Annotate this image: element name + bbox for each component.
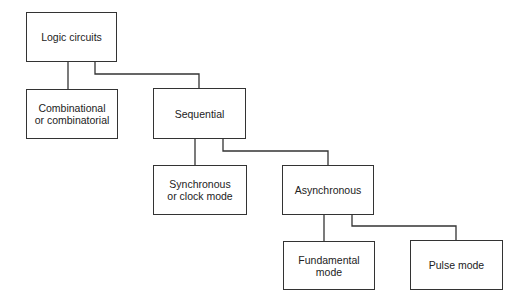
node-logic-circuits: Logic circuits [26,12,117,62]
node-sequential: Sequential [153,88,246,139]
edge-logic-seq [95,61,199,88]
node-pulse-mode: Pulse mode [410,240,503,290]
node-fundamental-mode: Fundamental mode [283,241,375,290]
node-synchronous: Synchronous or clock mode [153,165,247,215]
edge-async-pulse [352,214,456,240]
node-asynchronous: Asynchronous [282,165,374,215]
edge-seq-async [223,138,328,165]
node-combinational: Combinational or combinatorial [26,89,118,139]
